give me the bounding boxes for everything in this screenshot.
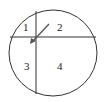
circle-diagram: 1 2 3 4 [0, 0, 106, 102]
region-label-2: 2 [57, 21, 63, 33]
arrow-icon [30, 24, 49, 44]
region-label-1: 1 [23, 21, 29, 33]
region-label-3: 3 [24, 60, 30, 72]
region-label-4: 4 [57, 60, 63, 72]
